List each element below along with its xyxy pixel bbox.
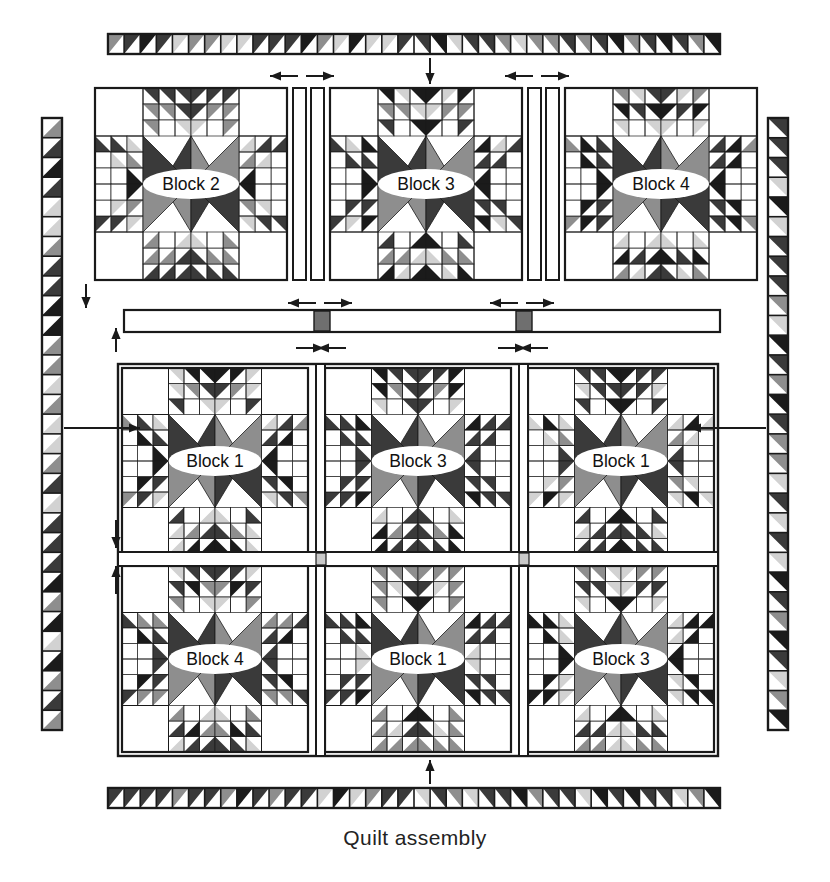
top-block-1: Block 2 (95, 88, 287, 280)
arrow-left-up-lower (111, 328, 120, 352)
quilt-diagram-canvas: Block 2Block 3Block 4Block 1Block 3Block… (0, 0, 830, 882)
corner-square (239, 232, 287, 280)
sashing-strip (528, 88, 541, 280)
corner-square (474, 232, 522, 280)
corner-square (465, 368, 512, 415)
arrow-head (490, 298, 501, 307)
corner-square (239, 88, 287, 136)
corner-square (668, 706, 715, 753)
corner-square (465, 566, 512, 613)
sashing-strip (546, 88, 559, 280)
arrow-left-down-upper (81, 284, 90, 308)
corner-square (325, 566, 372, 613)
block-label: Block 3 (592, 649, 649, 669)
bottom-row1-block-2: Block 3 (325, 368, 511, 554)
arrow-head (323, 71, 334, 80)
block-label: Block 3 (397, 174, 454, 194)
vertical-sashing-strip-2 (311, 88, 324, 280)
corner-square (325, 706, 372, 753)
corner-square (528, 508, 575, 555)
top-block-3: Block 4 (565, 88, 757, 280)
arrow-midsash-left-a (288, 298, 316, 307)
arrow-head (288, 298, 299, 307)
vertical-sashing-strip-3 (528, 88, 541, 280)
left-sawtooth-border (42, 118, 62, 730)
corner-square (262, 508, 309, 555)
corner-square (122, 508, 169, 555)
sashing-bar (124, 310, 720, 332)
vertical-sashing-strip-4 (546, 88, 559, 280)
arrow-head (341, 298, 352, 307)
block-label: Block 1 (389, 649, 446, 669)
corner-square (122, 706, 169, 753)
corner-square (528, 566, 575, 613)
inner-horizontal-sashing (118, 552, 718, 566)
top-sawtooth-border (108, 34, 720, 54)
arrow-head (558, 71, 569, 80)
sashing-strip (293, 88, 306, 280)
corner-square (565, 88, 613, 136)
sashing-strip (311, 88, 324, 280)
arrow-head (318, 343, 329, 352)
arrow-bottom-border-up (425, 760, 434, 784)
arrow-top-sash2-left (505, 71, 533, 80)
quilt-assembly-figure: Block 2Block 3Block 4Block 1Block 3Block… (0, 0, 830, 882)
bottom-row2-block-2: Block 1 (325, 566, 511, 752)
block-label: Block 1 (592, 451, 649, 471)
block-label: Block 2 (162, 174, 219, 194)
inner-sashing-bar (118, 552, 718, 566)
corner-square (668, 508, 715, 555)
corner-square (95, 88, 143, 136)
corner-square (330, 232, 378, 280)
block-label: Block 4 (186, 649, 244, 669)
inner-cornerstone (316, 553, 326, 565)
sashing-cornerstone (516, 311, 532, 331)
horizontal-sashing-row (124, 310, 720, 332)
arrow-top-border-down (425, 58, 434, 84)
corner-square (465, 508, 512, 555)
arrow-head (81, 297, 90, 308)
block-label: Block 3 (389, 451, 446, 471)
corner-square (528, 706, 575, 753)
corner-square (668, 368, 715, 415)
corner-square (528, 368, 575, 415)
arrow-top-sash-left (270, 71, 298, 80)
corner-square (474, 88, 522, 136)
arrow-lowsash-left-a (318, 343, 346, 352)
corner-square (668, 566, 715, 613)
arrow-midsash-right-a (324, 298, 352, 307)
corner-square (565, 232, 613, 280)
corner-square (262, 566, 309, 613)
top-block-2: Block 3 (330, 88, 522, 280)
arrow-head (543, 298, 554, 307)
bottom-sawtooth-border (108, 788, 720, 808)
right-sawtooth-border (768, 118, 788, 730)
corner-square (95, 232, 143, 280)
arrow-head (111, 328, 120, 339)
bottom-row1-block-3: Block 1 (528, 368, 714, 554)
block-label: Block 1 (186, 451, 243, 471)
corner-square (122, 566, 169, 613)
corner-square (262, 368, 309, 415)
arrow-top-sash-right (306, 71, 334, 80)
arrow-head (425, 73, 434, 84)
arrow-head (270, 71, 281, 80)
corner-square (262, 706, 309, 753)
arrow-head (505, 71, 516, 80)
bottom-row1-block-1: Block 1 (122, 368, 308, 554)
arrow-midsash-right-b (526, 298, 554, 307)
bottom-row2-block-3: Block 3 (528, 566, 714, 752)
block-label: Block 4 (632, 174, 690, 194)
figure-caption: Quilt assembly (0, 826, 830, 850)
corner-square (709, 232, 757, 280)
corner-square (122, 368, 169, 415)
corner-square (325, 508, 372, 555)
corner-square (325, 368, 372, 415)
arrow-head (520, 343, 531, 352)
inner-cornerstone (519, 553, 529, 565)
corner-square (709, 88, 757, 136)
arrow-head (425, 760, 434, 771)
arrow-lowsash-left-b (520, 343, 548, 352)
arrow-top-sash2-right (541, 71, 569, 80)
corner-square (330, 88, 378, 136)
